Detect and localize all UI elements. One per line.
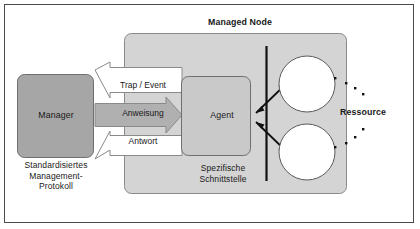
managed-node-label: Managed Node (180, 17, 300, 28)
resource-circle-lower[interactable] (279, 124, 335, 180)
diagram-figure: Managed Node Manager Agent Standardisier… (0, 0, 420, 229)
manager-label: Manager (17, 110, 95, 121)
resource-circle-upper[interactable] (279, 56, 335, 112)
anweisung-arrow-label: Anweisung (104, 108, 182, 118)
protocol-caption: Standardisiertes Management- Protokoll (8, 160, 104, 192)
trap-event-arrow-label: Trap / Event (104, 80, 182, 90)
agent-label: Agent (186, 110, 258, 121)
interface-caption: Spezifische Schnittstelle (186, 163, 260, 184)
resource-caption: Ressource (340, 107, 414, 118)
antwort-arrow-label: Antwort (104, 136, 182, 146)
